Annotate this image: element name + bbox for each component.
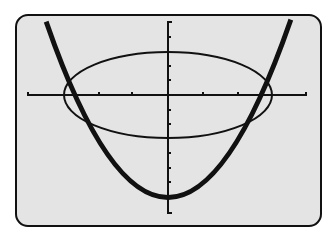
graph-plot xyxy=(0,0,333,238)
